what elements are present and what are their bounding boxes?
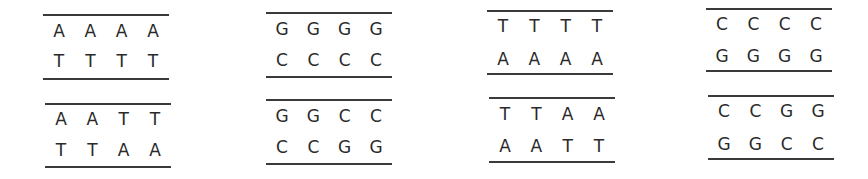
- nucleotide: C: [366, 106, 386, 126]
- strand-row-bottom: G G G G: [706, 46, 832, 66]
- nucleotide: A: [112, 21, 132, 41]
- nucleotide: A: [589, 104, 609, 124]
- nucleotide: C: [303, 50, 323, 70]
- nucleotide: T: [80, 51, 100, 71]
- strand-divider-bottom: [45, 166, 171, 168]
- nucleotide: C: [745, 101, 765, 121]
- nucleotide: T: [114, 109, 134, 129]
- strand-row-bottom: A A T T: [489, 136, 615, 156]
- strand-row-top: A A A A: [43, 21, 169, 41]
- strand-divider-bottom: [266, 163, 392, 165]
- strand-row-top: G G C C: [266, 106, 392, 126]
- nucleotide: G: [743, 46, 763, 66]
- nucleotide: A: [80, 21, 100, 41]
- nucleotide: A: [524, 49, 544, 69]
- strand-divider-top: [489, 97, 615, 99]
- nucleotide: G: [808, 101, 828, 121]
- strand-row-bottom: T T T T: [43, 51, 169, 71]
- strand-divider-bottom: [43, 78, 169, 80]
- nucleotide: C: [808, 134, 828, 154]
- nucleotide: G: [712, 46, 732, 66]
- nucleotide: T: [51, 140, 71, 160]
- nucleotide: G: [775, 46, 795, 66]
- strand-divider-top: [266, 12, 392, 14]
- strand-row-top: T T A A: [489, 104, 615, 124]
- nucleotide: G: [272, 19, 292, 39]
- strand-divider-bottom: [706, 70, 832, 72]
- nucleotide: A: [143, 21, 163, 41]
- nucleotide: C: [712, 14, 732, 34]
- nucleotide: A: [556, 49, 576, 69]
- strand-divider-bottom: [489, 161, 615, 163]
- nucleotide: T: [82, 140, 102, 160]
- nucleotide: G: [714, 134, 734, 154]
- nucleotide: A: [587, 49, 607, 69]
- nucleotide: A: [493, 49, 513, 69]
- strand-row-top: G G G G: [266, 19, 392, 39]
- nucleotide: G: [303, 19, 323, 39]
- nucleotide: T: [524, 16, 544, 36]
- nucleotide: T: [493, 16, 513, 36]
- strand-divider-top: [706, 8, 832, 10]
- strand-divider-bottom: [708, 158, 834, 160]
- nucleotide: T: [526, 104, 546, 124]
- nucleotide: A: [558, 104, 578, 124]
- strand-row-bottom: G G C C: [708, 134, 834, 154]
- nucleotide: C: [335, 106, 355, 126]
- nucleotide: A: [114, 140, 134, 160]
- strand-row-bottom: C C G G: [266, 137, 392, 157]
- strand-row-top: C C G G: [708, 101, 834, 121]
- nucleotide: C: [272, 50, 292, 70]
- strand-divider-top: [266, 99, 392, 101]
- strand-row-top: C C C C: [706, 14, 832, 34]
- nucleotide: A: [495, 136, 515, 156]
- nucleotide: A: [145, 140, 165, 160]
- nucleotide: C: [743, 14, 763, 34]
- nucleotide: T: [558, 136, 578, 156]
- strand-row-bottom: T T A A: [45, 140, 171, 160]
- nucleotide: A: [82, 109, 102, 129]
- strand-divider-top: [45, 103, 171, 105]
- nucleotide: G: [303, 106, 323, 126]
- strand-divider-top: [487, 10, 613, 12]
- strand-row-bottom: A A A A: [487, 49, 613, 69]
- nucleotide: T: [495, 104, 515, 124]
- nucleotide: C: [366, 50, 386, 70]
- nucleotide: C: [775, 14, 795, 34]
- strand-row-top: T T T T: [487, 16, 613, 36]
- nucleotide: G: [745, 134, 765, 154]
- nucleotide: G: [335, 19, 355, 39]
- nucleotide: C: [303, 137, 323, 157]
- nucleotide: T: [587, 16, 607, 36]
- nucleotide: T: [556, 16, 576, 36]
- nucleotide: A: [51, 109, 71, 129]
- nucleotide: A: [49, 21, 69, 41]
- strand-divider-bottom: [266, 76, 392, 78]
- nucleotide: T: [145, 109, 165, 129]
- nucleotide: C: [272, 137, 292, 157]
- nucleotide: C: [806, 14, 826, 34]
- strand-divider-top: [43, 14, 169, 16]
- nucleotide: T: [49, 51, 69, 71]
- nucleotide: T: [112, 51, 132, 71]
- nucleotide: T: [589, 136, 609, 156]
- strand-divider-top: [708, 95, 834, 97]
- nucleotide: G: [272, 106, 292, 126]
- nucleotide: G: [777, 101, 797, 121]
- strand-row-bottom: C C C C: [266, 50, 392, 70]
- nucleotide: C: [714, 101, 734, 121]
- nucleotide: G: [806, 46, 826, 66]
- nucleotide: G: [366, 19, 386, 39]
- nucleotide: C: [335, 50, 355, 70]
- nucleotide: T: [143, 51, 163, 71]
- nucleotide: C: [777, 134, 797, 154]
- nucleotide: A: [526, 136, 546, 156]
- strand-row-top: A A T T: [45, 109, 171, 129]
- nucleotide: G: [335, 137, 355, 157]
- nucleotide: G: [366, 137, 386, 157]
- strand-divider-bottom: [487, 73, 613, 75]
